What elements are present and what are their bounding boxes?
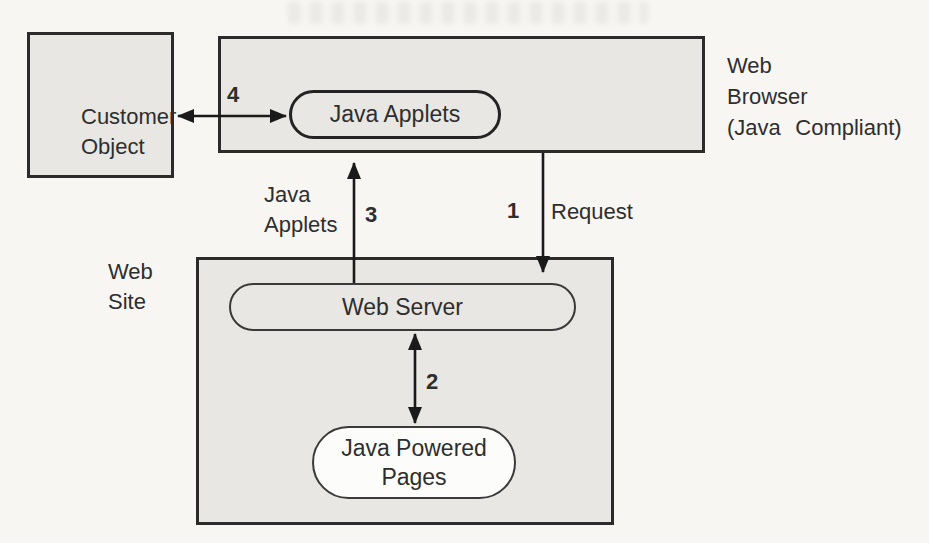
web-browser-caption-line1: Web (727, 50, 902, 81)
java-applets-pill: Java Applets (289, 90, 501, 139)
arrow-number-2: 2 (426, 369, 438, 395)
web-site-caption-line1: Web (108, 257, 153, 287)
customer-object-line1: Customer (81, 102, 176, 132)
request-arrow-label: Request (551, 197, 633, 227)
arrow-number-4: 4 (227, 82, 239, 108)
java-applets-label: Java Applets (330, 101, 460, 128)
customer-object-label: Customer Object (81, 102, 176, 162)
scan-bleed-artifact (288, 2, 648, 24)
web-browser-caption-line3: (Java Compliant) (727, 112, 902, 143)
diagram-canvas: Customer Object Java Applets Web Browser… (0, 0, 929, 543)
java-powered-pages-pill: Java Powered Pages (312, 426, 516, 499)
applets-arrow-label-line1: Java (264, 180, 337, 210)
arrow-number-3: 3 (365, 202, 377, 228)
java-powered-pages-line2: Pages (381, 463, 446, 492)
web-site-caption: Web Site (108, 257, 153, 317)
web-site-caption-line2: Site (108, 287, 153, 317)
customer-object-box: Customer Object (27, 32, 174, 178)
web-browser-caption: Web Browser (Java Compliant) (727, 50, 902, 143)
customer-object-line2: Object (81, 132, 176, 162)
applets-arrow-label-line2: Applets (264, 210, 337, 240)
web-server-label: Web Server (342, 294, 463, 321)
web-browser-caption-line2: Browser (727, 81, 902, 112)
web-server-pill: Web Server (229, 283, 576, 331)
arrow-number-1: 1 (507, 198, 519, 224)
java-powered-pages-line1: Java Powered (341, 434, 487, 463)
applets-arrow-label: Java Applets (264, 180, 337, 240)
